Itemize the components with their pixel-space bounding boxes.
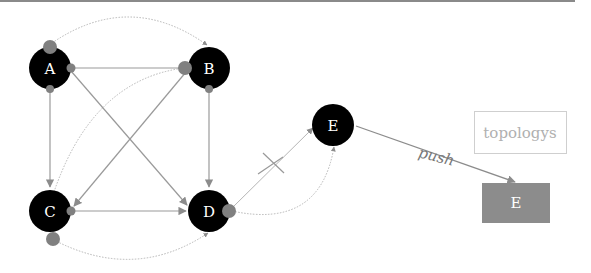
port-a-top[interactable] [43, 40, 57, 54]
svg-text:E: E [328, 117, 339, 135]
edge-c-d-dotted[interactable] [54, 233, 208, 259]
svg-text:topologys: topologys [483, 124, 556, 142]
legend-box: topologys [475, 112, 567, 154]
target-box-e[interactable]: E [482, 183, 550, 223]
node-e[interactable]: E [312, 104, 354, 146]
node-b[interactable]: B [188, 47, 230, 89]
port-b-bottom[interactable] [205, 85, 213, 93]
port-b-left[interactable] [178, 61, 192, 75]
port-c-bottom[interactable] [46, 232, 60, 246]
port-c-right[interactable] [67, 207, 76, 216]
svg-text:A: A [44, 60, 56, 78]
blocked-cross-icon [258, 153, 284, 174]
edge-a-b-dotted[interactable] [52, 17, 207, 45]
port-a-right[interactable] [67, 64, 76, 73]
svg-text:E: E [511, 194, 522, 212]
push-label: push [416, 143, 456, 169]
port-a-bottom[interactable] [46, 85, 54, 93]
port-d-right[interactable] [222, 204, 236, 218]
node-c[interactable]: C [29, 190, 71, 232]
svg-text:C: C [44, 203, 55, 221]
topology-diagram: push A B C D E E topologys [0, 0, 591, 273]
edge-d-e[interactable] [232, 128, 313, 208]
svg-text:B: B [203, 60, 214, 78]
edge-b-c[interactable] [74, 72, 186, 206]
svg-text:D: D [203, 203, 215, 221]
